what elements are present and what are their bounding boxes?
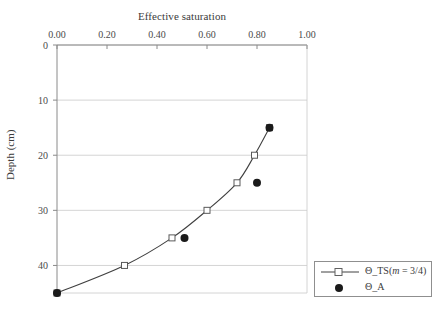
legend-label-theta-ts-suffix: = 3/4) xyxy=(399,265,426,276)
gridlines xyxy=(57,45,307,265)
legend: Θ_TS(m = 3/4) Θ_A xyxy=(314,261,432,297)
axis-lines xyxy=(57,45,307,293)
data-point-marker xyxy=(181,234,189,242)
legend-item-theta-a: Θ_A xyxy=(315,280,433,296)
legend-label-theta-a-prefix: Θ_A xyxy=(365,281,384,292)
legend-symbol-line-open-square xyxy=(319,264,361,280)
data-point-marker xyxy=(169,235,175,241)
data-point-marker xyxy=(266,124,274,132)
legend-item-theta-ts: Θ_TS(m = 3/4) xyxy=(315,264,433,280)
data-point-marker xyxy=(253,179,261,187)
data-point-marker xyxy=(252,152,258,158)
data-point-marker xyxy=(53,289,61,297)
data-point-marker xyxy=(234,180,240,186)
legend-label-theta-ts: Θ_TS(m = 3/4) xyxy=(365,265,426,276)
chart-figure: Effective saturation 0.000.200.400.600.8… xyxy=(0,0,440,310)
legend-label-theta-a: Θ_A xyxy=(365,281,384,292)
data-point-marker xyxy=(204,207,210,213)
data-point-marker xyxy=(122,262,128,268)
legend-symbol-filled-circle xyxy=(319,280,361,296)
legend-label-theta-ts-prefix: Θ_TS( xyxy=(365,265,392,276)
